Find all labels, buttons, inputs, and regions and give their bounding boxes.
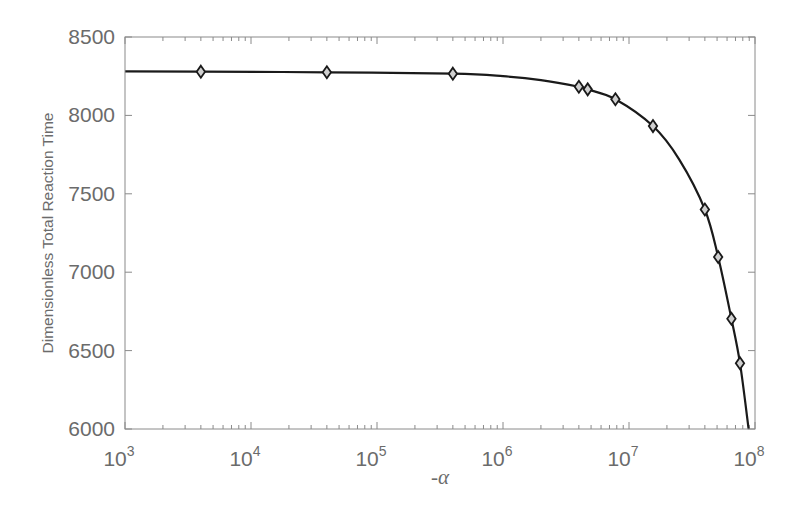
diamond-marker — [449, 68, 457, 80]
y-tick-label: 7500 — [68, 182, 115, 205]
x-tick-label: 108 — [733, 443, 764, 470]
plot-area-frame — [125, 37, 755, 429]
y-tick-labels: 600065007000750080008500 — [68, 25, 115, 440]
diamond-marker — [701, 203, 709, 215]
y-tick-label: 6500 — [68, 339, 115, 362]
y-tick-label: 6000 — [68, 417, 115, 440]
diamond-marker — [197, 66, 205, 78]
diamond-marker — [611, 93, 619, 105]
diamond-marker — [575, 81, 583, 93]
diamond-marker — [727, 313, 735, 325]
diamond-marker — [583, 83, 591, 95]
x-tick-label: 103 — [103, 443, 134, 470]
x-tick-label: 104 — [229, 443, 260, 470]
minor-ticks — [163, 37, 749, 429]
data-markers — [197, 66, 745, 369]
x-axis-label: -α — [431, 465, 450, 489]
major-ticks — [125, 37, 755, 429]
diamond-marker — [714, 251, 722, 263]
diamond-marker — [323, 66, 331, 78]
y-tick-label: 8000 — [68, 103, 115, 126]
y-axis-label: Dimensionless Total Reaction Time — [39, 113, 56, 354]
y-tick-label: 8500 — [68, 25, 115, 48]
x-tick-label: 107 — [607, 443, 638, 470]
x-tick-label: 105 — [355, 443, 386, 470]
chart: 600065007000750080008500 103104105106107… — [0, 0, 812, 505]
y-tick-label: 7000 — [68, 260, 115, 283]
x-tick-label: 106 — [481, 443, 512, 470]
diamond-marker — [736, 357, 744, 369]
